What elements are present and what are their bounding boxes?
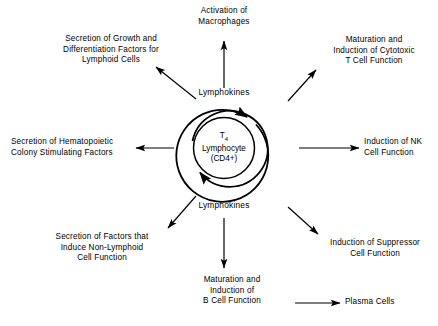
core-line-1: T4 bbox=[220, 131, 228, 140]
arrow-to-suppressor-cell-function bbox=[288, 207, 318, 234]
core-line-2: Lymphocyte bbox=[202, 144, 246, 153]
label-induction-of-nk-cell-function: Induction of NK Cell Function bbox=[364, 137, 438, 158]
core-subscript: 4 bbox=[225, 136, 228, 142]
label-secretion-of-growth-and-differentiation-factors: Secretion of Growth and Differentiation … bbox=[47, 34, 175, 66]
label-secretion-of-hematopoietic-colony-stimulating-factors: Secretion of Hematopoietic Colony Stimul… bbox=[11, 137, 135, 158]
label-activation-of-macrophages: Activation of Macrophages bbox=[176, 6, 272, 27]
label-maturation-induction-b-cell: Maturation and Induction of B Cell Funct… bbox=[176, 275, 288, 307]
arrow-to-cytotoxic-t-cell-function bbox=[288, 70, 316, 101]
label-induction-of-suppressor-cell-function: Induction of Suppressor Cell Function bbox=[318, 238, 432, 259]
label-secretion-of-factors-non-lymphoid: Secretion of Factors that Induce Non-Lym… bbox=[41, 232, 163, 264]
label-maturation-induction-cytotoxic-t-cell: Maturation and Induction of Cytotoxic T … bbox=[315, 35, 433, 67]
lymphokine-function-diagram: T4 Lymphocyte (CD4+) Lymphokines Lymphok… bbox=[0, 0, 438, 326]
core-line-3: (CD4+) bbox=[211, 154, 238, 163]
lymphokines-label-bottom: Lymphokines bbox=[174, 200, 274, 210]
lymphokines-label-top: Lymphokines bbox=[174, 87, 274, 97]
t4-lymphocyte-core-label: T4 Lymphocyte (CD4+) bbox=[194, 131, 254, 165]
label-plasma-cells: Plasma Cells bbox=[345, 297, 433, 308]
